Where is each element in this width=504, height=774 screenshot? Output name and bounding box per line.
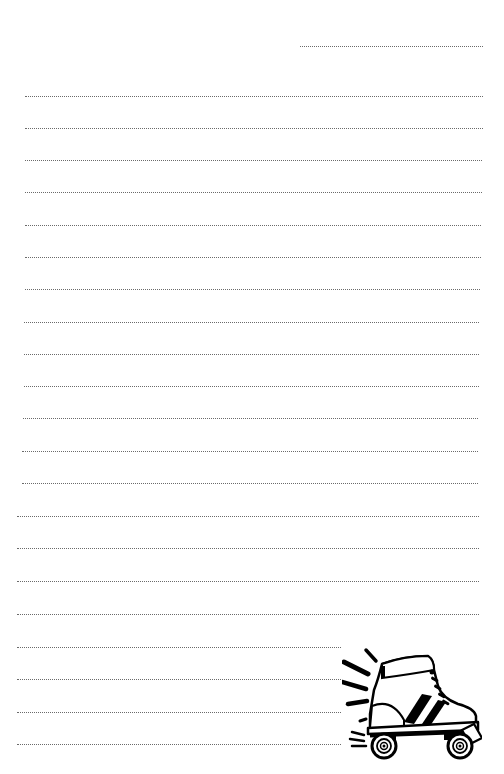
writing-line[interactable] [17, 548, 479, 549]
writing-line[interactable] [23, 418, 478, 419]
notepaper-page [0, 0, 504, 774]
writing-line[interactable] [25, 225, 481, 226]
writing-line[interactable] [25, 96, 483, 97]
writing-line[interactable] [25, 192, 482, 193]
writing-line[interactable] [22, 451, 478, 452]
writing-line[interactable] [24, 322, 479, 323]
writing-line[interactable] [17, 614, 479, 615]
date-line[interactable] [300, 46, 483, 47]
writing-line[interactable] [17, 581, 479, 582]
writing-line[interactable] [24, 386, 479, 387]
roller-skate-icon [342, 642, 482, 760]
writing-line[interactable] [25, 257, 481, 258]
writing-line[interactable] [22, 483, 478, 484]
writing-line[interactable] [24, 354, 479, 355]
writing-line[interactable] [17, 516, 479, 517]
writing-line[interactable] [25, 289, 480, 290]
writing-line[interactable] [25, 160, 482, 161]
writing-line[interactable] [25, 128, 483, 129]
